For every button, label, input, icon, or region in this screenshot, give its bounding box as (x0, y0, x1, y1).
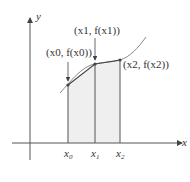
label-p2: (x2, f(x2)) (123, 58, 169, 71)
diagram-canvas: y x x0 x1 x2 (x0, f(x0)) (x1, f(x1)) (x2… (0, 0, 190, 182)
trapezoid-rule-diagram: y x x0 x1 x2 (x0, f(x0)) (x1, f(x1)) (x2… (0, 0, 190, 182)
label-p0: (x0, f(x0)) (46, 46, 92, 59)
tick-x0: x0 (63, 147, 73, 161)
tick-x2: x2 (115, 147, 125, 161)
x-axis-label: x (181, 136, 187, 148)
shaded-area (68, 60, 120, 143)
label-p1: (x1, f(x1)) (74, 24, 120, 37)
tick-x1: x1 (90, 147, 99, 161)
point-p0 (66, 83, 69, 86)
point-p2 (118, 58, 121, 61)
point-p1 (93, 62, 96, 65)
y-axis-label: y (35, 10, 41, 22)
